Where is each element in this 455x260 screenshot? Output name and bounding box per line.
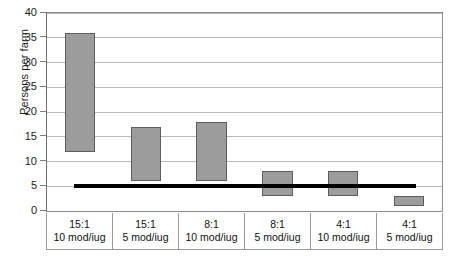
- y-tick-mark: [40, 36, 46, 37]
- plot-area: [46, 12, 443, 212]
- category-density-label: 5 mod/iug: [122, 231, 168, 244]
- x-axis-category-cell: 8:15 mod/iug: [245, 213, 311, 249]
- y-tick-label: 0: [31, 204, 37, 216]
- gridline: [47, 112, 442, 113]
- reference-line: [74, 184, 416, 188]
- category-ratio-label: 8:1: [204, 218, 219, 231]
- x-axis-category-cell: 15:15 mod/iug: [113, 213, 179, 249]
- y-tick-mark: [40, 111, 46, 112]
- x-axis-category-cell: 15:110 mod/iug: [47, 213, 113, 249]
- y-tick-mark: [40, 210, 46, 211]
- y-tick-label: 35: [25, 31, 37, 43]
- category-density-label: 5 mod/iug: [386, 231, 432, 244]
- bar: [131, 127, 161, 181]
- category-ratio-label: 8:1: [270, 218, 285, 231]
- y-tick-mark: [40, 86, 46, 87]
- category-density-label: 5 mod/iug: [254, 231, 300, 244]
- gridline: [47, 87, 442, 88]
- y-axis-title: Persons per farm: [16, 2, 32, 142]
- y-tick-mark: [40, 12, 46, 13]
- y-tick-label: 40: [25, 6, 37, 18]
- chart-figure: Persons per farm 0510152025303540 15:110…: [0, 0, 455, 260]
- y-tick-label: 10: [25, 155, 37, 167]
- y-tick-mark: [40, 61, 46, 62]
- category-ratio-label: 15:1: [135, 218, 155, 231]
- y-tick-label: 15: [25, 130, 37, 142]
- y-tick-mark: [40, 135, 46, 136]
- category-ratio-label: 15:1: [69, 218, 89, 231]
- y-tick-mark: [40, 160, 46, 161]
- x-axis-category-cell: 4:110 mod/iug: [311, 213, 377, 249]
- gridline: [47, 62, 442, 63]
- bar: [394, 196, 424, 206]
- y-tick-label: 30: [25, 56, 37, 68]
- category-ratio-label: 4:1: [336, 218, 351, 231]
- category-density-label: 10 mod/iug: [186, 231, 238, 244]
- y-tick-mark: [40, 185, 46, 186]
- category-ratio-label: 4:1: [402, 218, 417, 231]
- bar: [65, 33, 95, 152]
- bar: [196, 122, 226, 181]
- y-tick-label: 20: [25, 105, 37, 117]
- x-axis-category-cell: 8:110 mod/iug: [179, 213, 245, 249]
- gridline: [47, 211, 442, 212]
- gridline: [47, 136, 442, 137]
- gridline: [47, 161, 442, 162]
- category-density-label: 10 mod/iug: [318, 231, 370, 244]
- gridline: [47, 37, 442, 38]
- y-tick-label: 5: [31, 179, 37, 191]
- y-tick-label: 25: [25, 80, 37, 92]
- category-density-label: 10 mod/iug: [54, 231, 106, 244]
- x-axis-category-table: 15:110 mod/iug15:15 mod/iug8:110 mod/iug…: [46, 213, 443, 250]
- gridline: [47, 13, 442, 14]
- x-axis-category-cell: 4:15 mod/iug: [377, 213, 442, 249]
